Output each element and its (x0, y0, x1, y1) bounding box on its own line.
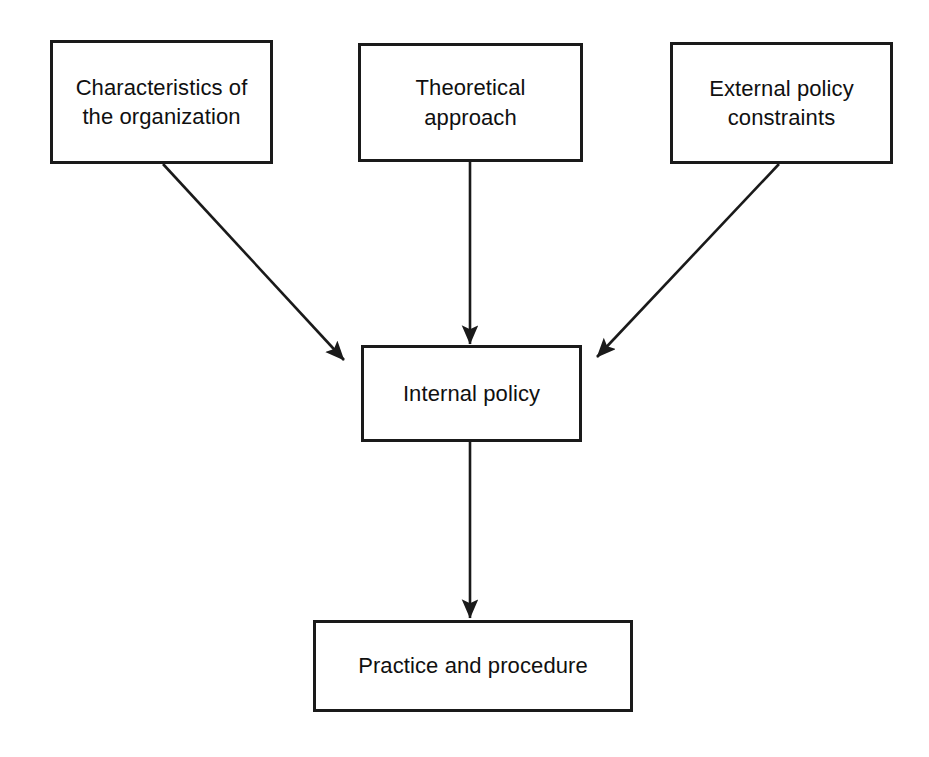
node-theoretical-approach: Theoretical approach (358, 43, 583, 162)
node-label: Practice and procedure (350, 651, 596, 680)
node-external-policy-constraints: External policy constraints (670, 42, 893, 164)
node-label: Characteristics of the organization (68, 73, 256, 131)
edge-external-to-internal (597, 164, 779, 357)
node-internal-policy: Internal policy (361, 345, 582, 442)
node-label: Theoretical approach (408, 73, 534, 131)
edge-characteristics-to-internal (163, 164, 344, 360)
node-label: Internal policy (395, 379, 548, 408)
node-label: External policy constraints (701, 74, 862, 132)
diagram-canvas: Characteristics of the organization Theo… (0, 0, 929, 757)
node-characteristics-of-the-organization: Characteristics of the organization (50, 40, 273, 164)
node-practice-and-procedure: Practice and procedure (313, 620, 633, 712)
